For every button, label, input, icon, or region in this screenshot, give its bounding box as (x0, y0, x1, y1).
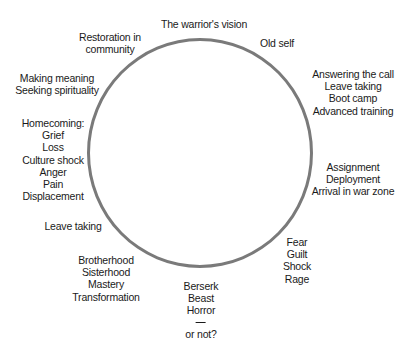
stage-line: Displacement (22, 190, 85, 202)
stage-line: Loss (22, 141, 85, 153)
stage-line: Guilt (283, 248, 311, 260)
stage-assignment: Assignment Deployment Arrival in war zon… (312, 161, 395, 198)
stage-line: or not? (184, 328, 219, 340)
stage-answering-call: Answering the call Leave taking Boot cam… (312, 68, 394, 117)
stage-warriors-vision: The warrior's vision (161, 18, 247, 30)
stage-homecoming: Homecoming: Grief Loss Culture shock Ang… (22, 117, 85, 202)
stage-line: Fear (283, 236, 311, 248)
stage-line: Leave taking (312, 80, 394, 92)
stage-line: Deployment (312, 173, 395, 185)
stage-line: Answering the call (312, 68, 394, 80)
stage-line: Making meaning (15, 72, 99, 84)
stage-line: Grief (22, 129, 85, 141)
stage-line: Berserk (184, 280, 219, 292)
stage-line: Arrival in war zone (312, 185, 395, 197)
stage-line: Assignment (312, 161, 395, 173)
cycle-circle (87, 38, 313, 268)
stage-line: Rage (283, 273, 311, 285)
stage-line: Restoration in (79, 31, 141, 43)
stage-brotherhood: Brotherhood Sisterhood Mastery Transform… (72, 254, 139, 303)
stage-line: Mastery (72, 278, 139, 290)
stage-line: Leave taking (44, 220, 101, 232)
stage-line: Advanced training (312, 105, 394, 117)
stage-restoration: Restoration in community (79, 31, 141, 55)
stage-line: Homecoming: (22, 117, 85, 129)
stage-fear: Fear Guilt Shock Rage (283, 236, 311, 285)
stage-line: community (79, 43, 141, 55)
stage-line: The warrior's vision (161, 18, 247, 30)
stage-line: Transformation (72, 291, 139, 303)
stage-old-self: Old self (260, 37, 294, 49)
stage-line: Brotherhood (72, 254, 139, 266)
stage-leave-taking: Leave taking (44, 220, 101, 232)
stage-line: Beast (184, 292, 219, 304)
stage-line: Pain (22, 178, 85, 190)
stage-line: Horror (184, 304, 219, 316)
stage-line: Anger (22, 166, 85, 178)
stage-line: Seeking spirituality (15, 84, 99, 96)
stage-making-meaning: Making meaning Seeking spirituality (15, 72, 99, 96)
stage-line: Sisterhood (72, 266, 139, 278)
stage-line: Old self (260, 37, 294, 49)
stage-line: Shock (283, 260, 311, 272)
stage-line: Boot camp (312, 92, 394, 104)
stage-line: Culture shock (22, 154, 85, 166)
stage-berserk: Berserk Beast Horror or not? (184, 280, 219, 340)
separator-dash (196, 322, 206, 323)
